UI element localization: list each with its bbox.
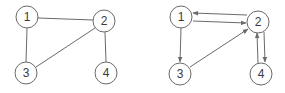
edge-1-to-3 (180, 28, 181, 62)
edge-2-3 (36, 28, 95, 67)
edge-2-to-4 (264, 32, 265, 62)
undirected-graph: 1 2 3 4 (15, 6, 117, 84)
node-label: 1 (24, 10, 31, 24)
node-label: 1 (178, 10, 185, 24)
edge-3-to-2 (190, 29, 248, 67)
edge-4-to-2 (257, 33, 258, 63)
node-3: 3 (15, 62, 37, 84)
edge-1-3 (26, 28, 27, 62)
node-4: 4 (250, 63, 272, 85)
node-4: 4 (95, 62, 117, 84)
node-label: 4 (258, 67, 265, 81)
edge-2-4 (105, 32, 106, 62)
node-label: 2 (255, 15, 262, 29)
edge-2-to-1 (193, 13, 247, 15)
node-label: 4 (103, 66, 110, 80)
node-label: 2 (101, 14, 108, 28)
node-3: 3 (169, 63, 191, 85)
edge-1-to-2 (193, 21, 246, 23)
node-label: 3 (23, 66, 30, 80)
node-label: 3 (177, 67, 184, 81)
directed-graph: 1 2 3 4 (169, 6, 272, 85)
node-1: 1 (170, 6, 192, 28)
node-1: 1 (16, 6, 38, 28)
node-2: 2 (247, 11, 269, 33)
node-2: 2 (93, 10, 115, 32)
graph-diagram: 1 2 3 4 1 2 3 (0, 0, 285, 93)
edge-1-2 (38, 18, 93, 20)
